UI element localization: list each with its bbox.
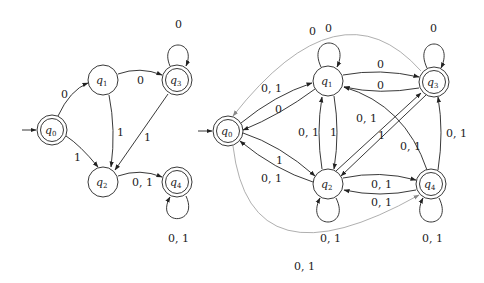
edge-q0-q2 xyxy=(66,136,98,167)
edge-q3-loop xyxy=(168,45,189,66)
edge-label: 1 xyxy=(117,126,124,139)
edge-label: 0, 1 xyxy=(400,140,421,153)
edge-label: 0, 1 xyxy=(371,178,392,191)
automata-figure: 0 1 0 1 0 1 0, 1 0, 1 q0 q1 q2 xyxy=(0,0,484,283)
edge-q2-q1 xyxy=(319,97,322,169)
edge-label: 0, 1 xyxy=(261,82,282,95)
left-dfa: 0 1 0 1 0 1 0, 1 0, 1 q0 q1 q2 xyxy=(22,18,192,245)
edge-label: 0, 1 xyxy=(422,232,443,245)
edge-label: 0, 1 xyxy=(446,127,467,140)
edge-label: 0, 1 xyxy=(294,260,315,273)
edge-label: 0, 1 xyxy=(298,126,319,139)
state-q3: q3 xyxy=(419,67,449,97)
edge-label: 1 xyxy=(74,151,81,164)
edge-label: 0, 1 xyxy=(320,232,341,245)
edge-label: 1 xyxy=(276,154,283,167)
state-q1: q1 xyxy=(88,65,118,95)
edge-label: 0 xyxy=(137,74,144,87)
edge-label: 0 xyxy=(377,79,384,92)
edge-label: 0 xyxy=(377,58,384,71)
edge-label: 0 xyxy=(309,25,316,38)
edge-label: 0 xyxy=(61,88,68,101)
state-q2: q2 xyxy=(88,167,118,197)
edge-q4-loop xyxy=(167,196,189,219)
edge-label: 0, 1 xyxy=(132,176,153,189)
state-q4: q4 xyxy=(416,169,446,199)
edge-label: 1 xyxy=(330,126,337,139)
state-q1: q1 xyxy=(313,66,343,96)
edge-label: 1 xyxy=(378,129,385,142)
state-q0: q0 xyxy=(37,115,67,145)
edge-q4-q3 xyxy=(438,97,441,170)
right-nfa: 0 0, 1 0, 1 0 1 0, 1 0 0 0 0, 1 1 0, 1 xyxy=(198,22,467,273)
edge-label: 0, 1 xyxy=(356,112,377,125)
state-q0: q0 xyxy=(213,116,243,146)
edge-label: 0 xyxy=(175,18,182,31)
state-q4: q4 xyxy=(162,167,192,197)
edge-label: 0, 1 xyxy=(371,196,392,209)
edge-label: 1 xyxy=(144,131,151,144)
edge-q1-q3 xyxy=(343,72,419,77)
edge-label: 0 xyxy=(430,22,437,35)
edge-label: 0 xyxy=(325,22,332,35)
edge-label: 0 xyxy=(275,103,282,116)
edge-q1-q2 xyxy=(109,95,113,167)
edge-q4-loop xyxy=(420,198,443,222)
edge-q2-loop xyxy=(317,198,340,222)
state-q3: q3 xyxy=(162,65,192,95)
edge-q3-loop xyxy=(424,44,444,68)
edge-label: 0, 1 xyxy=(168,232,189,245)
edge-label: 0, 1 xyxy=(261,172,282,185)
state-q2: q2 xyxy=(313,169,343,199)
edge-q1-loop xyxy=(318,43,340,67)
